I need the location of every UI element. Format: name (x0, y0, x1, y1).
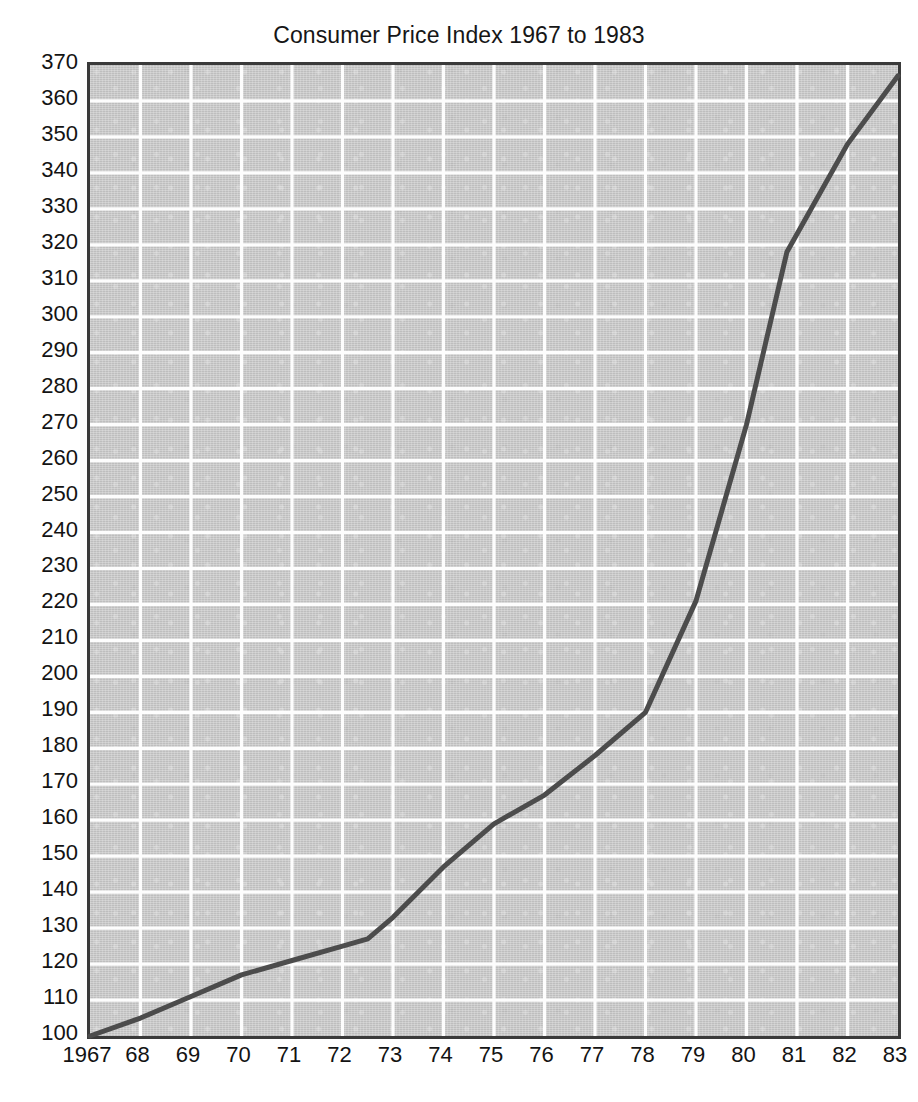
x-axis-tick-label: 76 (529, 1042, 553, 1068)
y-axis-tick-label: 150 (16, 842, 78, 864)
y-axis-tick-label: 330 (16, 195, 78, 217)
y-axis-tick-label: 110 (16, 986, 78, 1008)
x-axis-tick-label: 73 (378, 1042, 402, 1068)
y-axis-tick-label: 370 (16, 51, 78, 73)
y-axis-tick-label: 160 (16, 806, 78, 828)
x-axis-tick-label: 81 (782, 1042, 806, 1068)
x-axis-tick-label: 75 (479, 1042, 503, 1068)
y-axis-tick-label: 270 (16, 411, 78, 433)
y-axis-tick-label: 170 (16, 770, 78, 792)
y-axis-tick-label: 280 (16, 375, 78, 397)
y-axis-tick-label: 190 (16, 698, 78, 720)
y-axis-tick-label: 300 (16, 303, 78, 325)
y-axis-tick-label: 360 (16, 87, 78, 109)
y-axis-tick-label: 310 (16, 267, 78, 289)
y-axis-tick-label: 140 (16, 878, 78, 900)
y-axis-tick-label: 180 (16, 734, 78, 756)
cpi-line-series (90, 76, 898, 1036)
y-axis-tick-label: 220 (16, 590, 78, 612)
y-axis-tick-label: 130 (16, 914, 78, 936)
x-axis-tick-label: 74 (428, 1042, 452, 1068)
x-axis-tick-label: 79 (681, 1042, 705, 1068)
x-axis-tick-label: 78 (630, 1042, 654, 1068)
y-axis-tick-labels: 3703603503403303203103002902802702602502… (12, 0, 78, 1102)
y-axis-tick-label: 340 (16, 159, 78, 181)
x-axis-tick-label: 71 (277, 1042, 301, 1068)
x-axis-tick-label: 70 (226, 1042, 250, 1068)
x-axis-tick-label: 82 (832, 1042, 856, 1068)
data-series-layer (90, 65, 898, 1036)
chart-container: Consumer Price Index 1967 to 1983 370360… (0, 0, 918, 1102)
x-axis-tick-label: 68 (125, 1042, 149, 1068)
y-axis-tick-label: 100 (16, 1022, 78, 1044)
x-axis-tick-label: 1967 (63, 1042, 112, 1068)
y-axis-tick-label: 290 (16, 339, 78, 361)
y-axis-tick-label: 350 (16, 123, 78, 145)
x-axis-tick-label: 69 (176, 1042, 200, 1068)
x-axis-tick-label: 83 (883, 1042, 907, 1068)
y-axis-tick-label: 210 (16, 626, 78, 648)
x-axis-tick-label: 80 (731, 1042, 755, 1068)
chart-title: Consumer Price Index 1967 to 1983 (0, 22, 918, 49)
y-axis-tick-label: 120 (16, 950, 78, 972)
x-axis-tick-label: 77 (580, 1042, 604, 1068)
y-axis-tick-label: 230 (16, 554, 78, 576)
x-axis-tick-labels: 196768697071727374757677787980818283 (0, 1042, 918, 1078)
x-axis-tick-label: 72 (327, 1042, 351, 1068)
y-axis-tick-label: 320 (16, 231, 78, 253)
y-axis-tick-label: 250 (16, 483, 78, 505)
y-axis-tick-label: 240 (16, 519, 78, 541)
plot-area (87, 62, 901, 1039)
y-axis-tick-label: 200 (16, 662, 78, 684)
y-axis-tick-label: 260 (16, 447, 78, 469)
